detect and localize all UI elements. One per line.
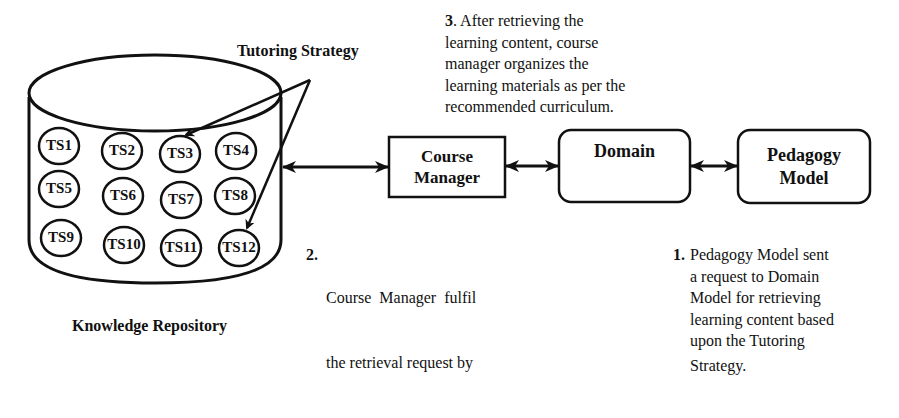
step1-line6: Strategy.: [690, 355, 834, 377]
ts3-label: TS3: [160, 145, 200, 162]
ts5-label: TS5: [39, 180, 79, 197]
step1-line4: learning content based: [690, 309, 834, 331]
step2-body: Course Manager fulfil the retrieval requ…: [326, 244, 476, 418]
ts1-label: TS1: [39, 137, 79, 154]
step1-line5: upon the Tutoring: [690, 330, 834, 352]
step1-line3: Model for retrieving: [690, 287, 834, 309]
pedagogy-model-line2: Model: [780, 167, 829, 190]
step1-number: 1.: [673, 244, 685, 266]
step2-line2: the retrieval request by: [326, 352, 476, 374]
step3-line1: learning content, course: [445, 32, 625, 54]
course-manager-line1: Course: [421, 146, 473, 167]
step3-line4: recommended curriculum.: [445, 96, 625, 118]
step3-line3: learning materials as per the: [445, 75, 625, 97]
step3-line0: 3. After retrieving the: [445, 10, 625, 32]
course-manager-line2: Manager: [414, 167, 480, 188]
ts12-label: TS12: [214, 239, 264, 256]
ts6-label: TS6: [103, 187, 143, 204]
ts11-label: TS11: [156, 239, 206, 256]
domain-label: Domain: [559, 134, 690, 168]
course-manager-label: Course Manager: [389, 137, 505, 197]
ts8-label: TS8: [215, 187, 255, 204]
domain-text: Domain: [594, 141, 655, 162]
step1-line1: Pedagogy Model sent: [690, 244, 834, 266]
step1-line2: a request to Domain: [690, 266, 834, 288]
step2-line1: Course Manager fulfil: [326, 287, 476, 309]
step3-line2: manager organizes the: [445, 53, 625, 75]
step3-number: 3: [445, 12, 453, 29]
pedagogy-model-line1: Pedagogy: [767, 144, 841, 167]
tutoring-strategy-label: Tutoring Strategy: [237, 42, 359, 60]
step1-body: Pedagogy Model sent a request to Domain …: [690, 244, 834, 376]
pedagogy-model-label: Pedagogy Model: [738, 138, 870, 196]
step3-first-line: . After retrieving the: [453, 12, 584, 29]
step3-note: 3. After retrieving the learning content…: [445, 10, 625, 118]
ts7-label: TS7: [161, 191, 201, 208]
step1-note: 1. Pedagogy Model sent a request to Doma…: [673, 244, 834, 376]
step2-note: 2. Course Manager fulfil the retrieval r…: [306, 244, 476, 418]
ts10-label: TS10: [99, 236, 149, 253]
knowledge-repository-label: Knowledge Repository: [72, 317, 227, 335]
ts9-label: TS9: [41, 229, 81, 246]
step2-number: 2.: [306, 244, 318, 266]
ts2-label: TS2: [102, 142, 142, 159]
ts4-label: TS4: [216, 142, 256, 159]
